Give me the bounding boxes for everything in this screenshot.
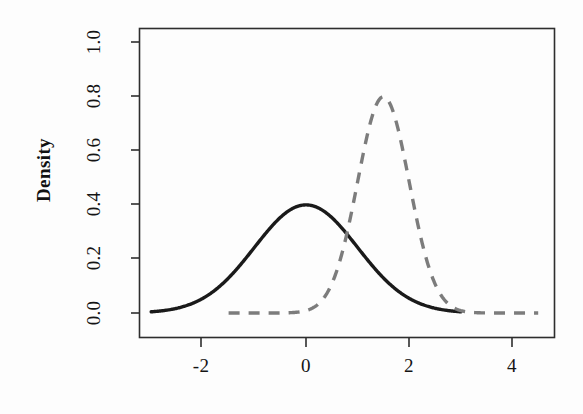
y-tick-label-5: 1.0	[83, 30, 104, 55]
y-tick-label-4: 0.8	[83, 84, 104, 109]
x-axis-ticks	[201, 338, 512, 347]
series-prior-curve	[151, 205, 461, 312]
x-axis-tick-labels: -2 0 2 4	[193, 355, 517, 376]
plot-canvas: 0.0 0.2 0.4 0.6 0.8 1.0 Density -2 0 2 4	[0, 0, 583, 414]
plot-frame	[140, 29, 555, 338]
y-axis-ticks	[131, 42, 139, 313]
y-tick-label-2: 0.4	[83, 191, 104, 216]
y-axis-title: Density	[33, 138, 54, 202]
data-curves	[151, 97, 538, 313]
y-tick-label-1: 0.2	[83, 246, 104, 271]
series-posterior-curve	[229, 97, 539, 313]
y-tick-label-3: 0.6	[83, 138, 104, 163]
x-tick-label-3: 4	[507, 355, 517, 376]
x-tick-label-0: -2	[193, 355, 209, 376]
density-plot-figure: 0.0 0.2 0.4 0.6 0.8 1.0 Density -2 0 2 4	[0, 0, 583, 414]
x-tick-label-1: 0	[301, 355, 311, 376]
y-axis-tick-labels: 0.0 0.2 0.4 0.6 0.8 1.0	[83, 30, 104, 326]
y-tick-label-0: 0.0	[83, 301, 104, 326]
x-tick-label-2: 2	[404, 355, 414, 376]
